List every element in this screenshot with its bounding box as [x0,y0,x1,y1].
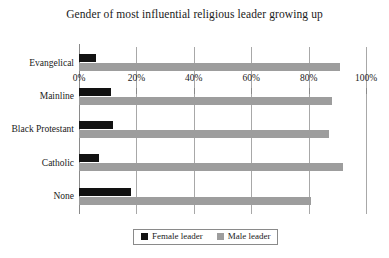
legend-label-female-leader: Female leader [152,232,203,241]
plot-area: 0%20%40%60%80%100%EvangelicalMainlineBla… [79,47,366,214]
bar-male-leader [79,63,340,71]
category-label: Catholic [42,159,74,169]
bar-female-leader [79,121,113,129]
bar-female-leader [79,88,111,96]
category-label: Evangelical [29,59,74,69]
category-label: Mainline [40,92,74,102]
x-axis-tick [366,88,367,94]
bar-male-leader [79,130,329,138]
category-row: None [79,181,366,214]
bar-female-leader [79,154,99,162]
legend-swatch-female-icon [141,233,148,240]
legend-swatch-male-icon [217,233,224,240]
bar-female-leader [79,188,131,196]
category-label: None [53,192,74,202]
bar-female-leader [79,54,96,62]
category-row: Mainline [79,80,366,113]
legend-label-male-leader: Male leader [228,232,271,241]
legend-item-female-leader: Female leader [141,232,203,241]
chart-legend: Female leader Male leader [133,229,278,245]
category-row: Catholic [79,147,366,180]
category-row: Evangelical [79,47,366,80]
bar-male-leader [79,197,311,205]
category-label: Black Protestant [11,125,74,135]
chart-container: Gender of most influential religious lea… [0,0,389,258]
bar-male-leader [79,97,332,105]
legend-item-male-leader: Male leader [217,232,271,241]
bar-male-leader [79,163,343,171]
category-row: Black Protestant [79,114,366,147]
chart-title: Gender of most influential religious lea… [0,8,389,20]
